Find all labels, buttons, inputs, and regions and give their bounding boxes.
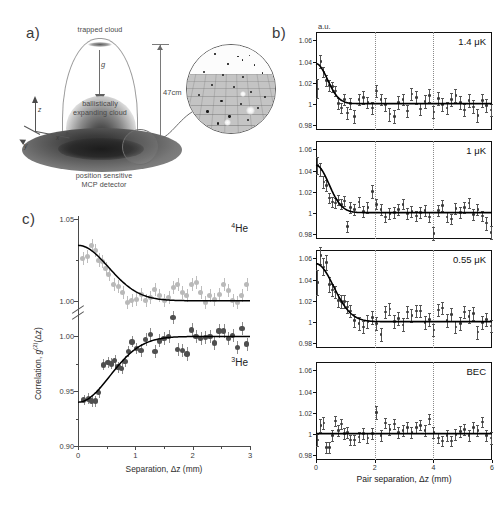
panel-b-temperature-series: b) a.u. 1.061.041.0210.981.4 μK1.061.041… (282, 0, 502, 506)
y-tick-label: 1 (308, 430, 312, 437)
inset-grid-line-horizontal (186, 96, 276, 97)
axis-y-shaft (24, 126, 40, 135)
detected-atom-flash (224, 119, 231, 126)
detected-atom-dot (242, 76, 244, 78)
x-tick-mark (78, 446, 79, 450)
y-tick-label: 1.04 (299, 388, 312, 395)
x-tick-label: 0 (314, 464, 318, 471)
trapped-cloud-blob (88, 42, 112, 47)
inset-grid-line-horizontal (186, 105, 276, 106)
y-tick-label: 1.06 (299, 255, 312, 262)
y-tick-label: 1.06 (299, 367, 312, 374)
detected-atom-dot (237, 56, 238, 57)
x-tick-minor (107, 446, 108, 449)
error-bar-cap-bottom (432, 240, 435, 241)
y-tick-label: 1 (308, 209, 312, 216)
fit-curve (78, 216, 250, 446)
x-tick-label: 2 (191, 451, 195, 460)
y-tick-label-upper: 1.05 (60, 215, 74, 224)
x-tick-mark (250, 446, 251, 450)
y-tick-label: 1.06 (299, 146, 312, 153)
expanding-cloud-label-line2: expanding cloud (54, 109, 146, 118)
detector-label-line2: MCP detector (52, 181, 156, 190)
detected-atom-dot (228, 115, 230, 117)
detected-atom-dot (242, 59, 244, 61)
panel-b-subplot-1: 1.061.041.0210.981 μK (316, 141, 492, 239)
detected-atom-dot (222, 74, 224, 76)
inset-grid-line-horizontal (186, 74, 276, 75)
axis-x-label: x (56, 134, 59, 141)
x-tick-label: 0 (76, 451, 80, 460)
y-tick-label: 1.02 (299, 297, 312, 304)
fit-curve (316, 141, 492, 239)
x-tick-label: 3 (248, 451, 252, 460)
x-tick-mark (135, 446, 136, 450)
panel-c-plot-area: 1.051.001.000.950.900123Separation, Δz (… (78, 216, 250, 446)
y-tick-label: 0.98 (299, 451, 312, 458)
detected-atom-dot (250, 91, 252, 93)
trapped-cloud-label: trapped cloud (58, 26, 142, 35)
fit-curve (316, 32, 492, 130)
detected-atom-flash (246, 106, 255, 115)
gravity-label: g (101, 60, 105, 69)
error-bar-cap-bottom (490, 239, 493, 240)
panel-b-subplot-3: 1.061.041.0210.98BEC0246Pair separation,… (316, 362, 492, 460)
panel-c-he3-he4-comparison: c) 1.051.001.000.950.900123Separation, Δ… (0, 198, 282, 506)
detected-atom-dot (211, 84, 213, 86)
x-tick-mark (492, 460, 493, 463)
axis-y-label: y (24, 142, 27, 149)
x-tick-mark (316, 460, 317, 463)
fit-curve (316, 362, 492, 460)
y-tick-label: 1.02 (299, 188, 312, 195)
y-tick-label-lower: 0.90 (60, 442, 74, 451)
x-tick-mark (433, 460, 434, 463)
x-tick-label: 4 (431, 464, 435, 471)
x-tick-mark (375, 460, 376, 463)
detected-atom-dot (214, 53, 216, 55)
panel-c-letter: c) (22, 210, 36, 227)
x-tick-label: 1 (133, 451, 137, 460)
detected-atom-dot (220, 100, 222, 102)
y-tick-label-lower: 0.95 (60, 387, 74, 396)
y-tick-label: 0.98 (299, 121, 312, 128)
y-tick-label: 1.04 (299, 167, 312, 174)
axis-z-head (32, 96, 38, 103)
y-tick-label: 1.02 (299, 409, 312, 416)
y-tick-label: 0.98 (299, 230, 312, 237)
y-tick-label: 1.04 (299, 276, 312, 283)
panel-c-x-axis-title: Separation, Δz (mm) (126, 464, 203, 474)
panel-b-x-axis-title: Pair separation, Δz (mm) (316, 474, 492, 484)
panel-b-subplot-2: 1.061.041.0210.980.55 μK (316, 250, 492, 348)
axis-x-head (65, 131, 72, 138)
panel-b-letter: b) (272, 24, 286, 41)
fit-curve (316, 250, 492, 348)
figure-root: a) trapped cloud g 47cm ballistically ex… (0, 0, 502, 506)
inset-detector-grid (186, 74, 276, 134)
panel-a-letter: a) (26, 24, 40, 41)
inset-grid-line-horizontal (186, 125, 276, 126)
x-tick-mark (193, 446, 194, 450)
y-tick-label: 0.98 (299, 339, 312, 346)
y-tick-label: 1 (308, 318, 312, 325)
detected-atom-dot (227, 63, 228, 64)
error-bar-cap-top (319, 247, 322, 248)
panel-b-units-label: a.u. (318, 22, 331, 31)
y-tick-label: 1.06 (299, 37, 312, 44)
x-tick-label: 2 (373, 464, 377, 471)
detected-atom-dot (206, 110, 208, 112)
y-tick-label: 1.04 (299, 58, 312, 65)
panel-b-subplot-0: 1.061.041.0210.981.4 μK (316, 32, 492, 130)
drop-distance-arrow-top (157, 45, 163, 50)
inset-grid-line-horizontal (186, 88, 276, 89)
panel-a-schematic: a) trapped cloud g 47cm ballistically ex… (0, 0, 280, 200)
drop-distance-label: 47cm (163, 88, 182, 97)
y-tick-label: 1.02 (299, 79, 312, 86)
y-tick-label-upper: 1.00 (60, 296, 74, 305)
axis-z-shaft (35, 100, 36, 132)
axis-z-label: z (38, 106, 41, 113)
gravity-arrow-shaft (99, 50, 100, 96)
x-tick-minor (164, 446, 165, 449)
panel-c-y-axis-title: Correlation, g(2)(Δz) (32, 327, 43, 400)
detector-surface-zoom-inset (186, 44, 276, 134)
x-tick-label: 6 (490, 464, 494, 471)
